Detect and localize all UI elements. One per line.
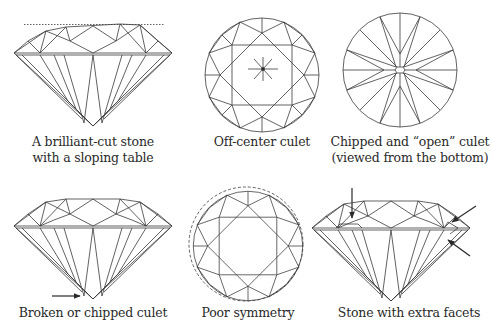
caption-poor-symmetry: Poor symmetry (176, 305, 320, 321)
diamond-flaws-diagram: A brilliant-cut stone with a sloping tab… (0, 0, 492, 328)
caption-sloping-table: A brilliant-cut stone with a sloping tab… (0, 134, 186, 166)
open-culet-hole (395, 67, 405, 73)
figure-extra-facets (312, 188, 476, 301)
arrow-icon (452, 206, 476, 222)
caption-line: Chipped and “open” culet (328, 134, 492, 150)
arrow-icon (448, 240, 470, 256)
caption-extra-facets: Stone with extra facets (326, 305, 492, 321)
caption-line: (viewed from the bottom) (328, 150, 492, 166)
figure-poor-symmetry (189, 187, 303, 301)
figure-chipped-culet (14, 199, 172, 299)
caption-open-culet: Chipped and “open” culet (viewed from th… (328, 134, 492, 166)
caption-off-center-culet: Off-center culet (190, 134, 334, 150)
figure-sloping-table (14, 24, 172, 126)
caption-line: Broken or chipped culet (0, 305, 186, 321)
caption-line: Poor symmetry (176, 305, 320, 321)
off-center-culet-star (248, 57, 278, 81)
caption-line: A brilliant-cut stone (0, 134, 186, 150)
caption-line: Stone with extra facets (326, 305, 492, 321)
figure-off-center-culet (205, 18, 319, 132)
caption-line: with a sloping table (0, 150, 186, 166)
caption-line: Off-center culet (190, 134, 334, 150)
caption-chipped-culet: Broken or chipped culet (0, 305, 186, 321)
figure-open-culet (343, 13, 457, 127)
